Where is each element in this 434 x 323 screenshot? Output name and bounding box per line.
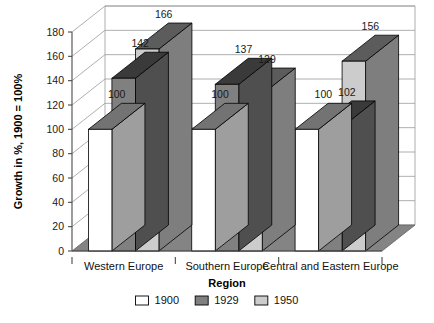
- legend-item[interactable]: 1900: [136, 294, 179, 306]
- legend-swatch: [136, 296, 149, 305]
- bar-front-face: [192, 129, 216, 251]
- legend-label: 1929: [214, 294, 238, 306]
- bar-value-label: 166: [155, 8, 173, 20]
- x-category-label: Western Europe: [84, 260, 163, 272]
- legend-swatch: [255, 296, 268, 305]
- legend-label: 1950: [274, 294, 298, 306]
- y-tick-label: 80: [52, 147, 64, 159]
- legend-label: 1900: [155, 294, 179, 306]
- bar-column: [88, 103, 145, 251]
- grid-depth-connector: [72, 55, 105, 81]
- bar-chart-3d: 020406080100120140160180Growth in %, 190…: [0, 0, 434, 323]
- bar-value-label: 129: [258, 53, 276, 65]
- legend-item[interactable]: 1950: [255, 294, 298, 306]
- y-tick-label: 40: [52, 196, 64, 208]
- x-category-label: Southern Europe: [185, 260, 268, 272]
- y-tick-label: 0: [58, 245, 64, 257]
- bar-column: [295, 103, 352, 251]
- bar-value-label: 100: [211, 88, 229, 100]
- y-tick-label: 60: [52, 172, 64, 184]
- bar-value-label: 137: [235, 43, 253, 55]
- y-axis-title: Growth in %, 1900 = 100%: [12, 74, 24, 210]
- y-tick-label: 20: [52, 220, 64, 232]
- bar-value-label: 100: [315, 88, 333, 100]
- y-tick-label: 180: [46, 26, 64, 38]
- bar-value-label: 156: [362, 20, 380, 32]
- grid-depth-connector: [72, 30, 105, 56]
- bar-front-face: [295, 129, 319, 251]
- x-axis-title: Region: [208, 277, 246, 289]
- bar-column: [192, 103, 249, 251]
- bar-value-label: 102: [338, 86, 356, 98]
- legend-swatch: [195, 296, 208, 305]
- chart-canvas: 020406080100120140160180Growth in %, 190…: [0, 0, 434, 323]
- y-tick-label: 160: [46, 50, 64, 62]
- bar-front-face: [88, 129, 112, 251]
- y-tick-label: 120: [46, 99, 64, 111]
- legend-item[interactable]: 1929: [195, 294, 238, 306]
- x-category-label: Central and Eastern Europe: [262, 260, 398, 272]
- grid-depth-connector: [72, 79, 105, 105]
- grid-depth-connector: [72, 6, 105, 32]
- y-tick-label: 140: [46, 74, 64, 86]
- bar-value-label: 100: [108, 88, 126, 100]
- y-tick-label: 100: [46, 123, 64, 135]
- bar-value-label: 142: [131, 37, 149, 49]
